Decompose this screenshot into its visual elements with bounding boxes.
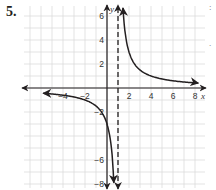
x-tick-label: 4: [149, 91, 154, 101]
y-tick-label: 6: [99, 11, 104, 21]
right-branch-curve: [123, 8, 198, 83]
tick-labels: −4−22468642−2−6−8xy: [58, 4, 205, 189]
y-tick-label: 2: [99, 59, 104, 69]
x-tick-label: 6: [171, 91, 176, 101]
y-tick-label: 4: [99, 35, 104, 45]
graph: −4−22468642−2−6−8xy: [0, 0, 216, 190]
y-tick-label: −8: [94, 179, 104, 189]
y-axis-label: y: [109, 4, 114, 14]
x-tick-label: 2: [127, 91, 132, 101]
axes: [22, 5, 206, 189]
x-axis-label: x: [200, 91, 205, 101]
y-tick-label: −6: [94, 155, 104, 165]
x-tick-label: 8: [193, 91, 198, 101]
grid-lines: [24, 6, 205, 188]
